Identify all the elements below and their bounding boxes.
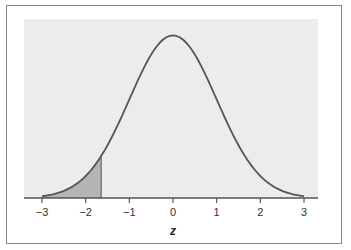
plot-area: [24, 19, 318, 198]
x-tick-label: −1: [123, 206, 136, 218]
x-axis-ticks: −3−2−10123: [36, 198, 307, 218]
x-tick-label: 2: [257, 206, 263, 218]
normal-distribution-chart: −3−2−10123 z: [0, 0, 351, 250]
x-tick-label: −2: [79, 206, 92, 218]
x-tick-label: 3: [301, 206, 307, 218]
x-tick-label: 0: [170, 206, 176, 218]
x-tick-label: −3: [36, 206, 49, 218]
x-tick-label: 1: [214, 206, 220, 218]
x-axis-label: z: [169, 224, 176, 238]
